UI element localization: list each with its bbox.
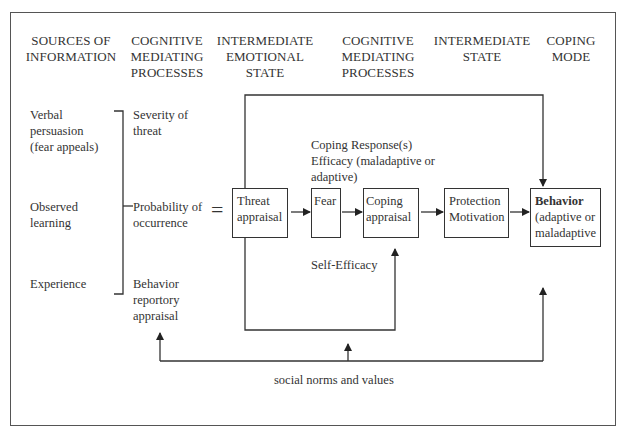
node-text: appraisal (237, 209, 284, 225)
node-text: appraisal (366, 209, 415, 225)
threat-to-behavior-arrow (245, 95, 543, 188)
node-threat-appraisal: Threat appraisal (232, 188, 288, 238)
node-text: Protection (449, 193, 505, 209)
node-text: Motivation (449, 209, 505, 225)
node-text: maladaptive (535, 225, 597, 241)
node-fear: Fear (311, 188, 341, 238)
node-behavior: Behavior (adaptive or maladaptive (530, 188, 601, 247)
source-bracket (114, 111, 123, 294)
node-text: (adaptive or (535, 209, 597, 225)
node-coping-appraisal: Coping appraisal (363, 188, 419, 238)
node-text: Behavior (535, 193, 597, 209)
node-text: Fear (314, 193, 337, 209)
self-efficacy-arrow (245, 237, 395, 330)
node-text: Threat (237, 193, 284, 209)
node-protection-motivation: Protection Motivation (444, 188, 509, 238)
node-text: Coping (366, 193, 415, 209)
